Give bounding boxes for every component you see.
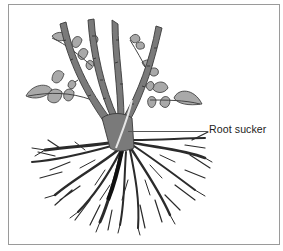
callout-leader-line: [128, 131, 208, 132]
callout-label-root-sucker: Root sucker: [209, 123, 266, 135]
